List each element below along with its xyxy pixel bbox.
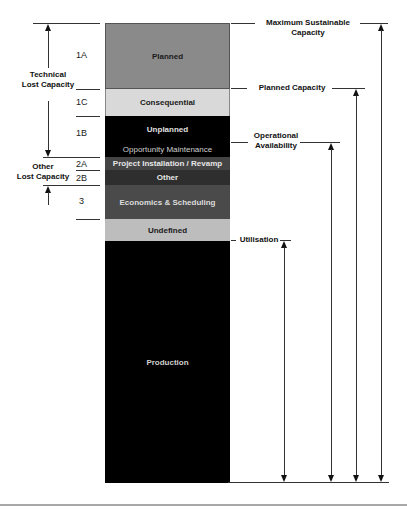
max-capacity-arrow bbox=[381, 30, 382, 476]
planned-capacity-label: Planned Capacity bbox=[254, 83, 330, 93]
operational-availability-label: Operational Availability bbox=[248, 131, 304, 151]
segment-sublabel: Opportunity Maintenance bbox=[123, 145, 212, 154]
code-1b: 1B bbox=[76, 128, 87, 138]
tick-2b-3 bbox=[43, 185, 100, 186]
arrow-down-icon bbox=[281, 475, 287, 482]
tick-planned-left bbox=[231, 88, 247, 89]
segment-undefined: Undefined bbox=[105, 219, 230, 241]
code-3: 3 bbox=[79, 196, 84, 206]
technical-arrow-upper bbox=[48, 30, 49, 68]
tick-utilisation-left bbox=[231, 240, 236, 241]
segment-production: Production bbox=[105, 241, 230, 483]
other-arrow bbox=[48, 192, 49, 205]
segment-economics-scheduling: Economics & Scheduling bbox=[105, 185, 230, 219]
segment-label: Unplanned bbox=[147, 125, 188, 134]
segment-label: Other bbox=[157, 173, 178, 182]
baseline bbox=[228, 482, 389, 483]
maximum-sustainable-capacity-label: Maximum Sustainable Capacity bbox=[258, 18, 358, 38]
segment-label: Undefined bbox=[148, 226, 187, 235]
arrow-down-icon bbox=[378, 475, 384, 482]
segment-other: Other bbox=[105, 170, 230, 185]
other-lost-capacity-label: Other Lost Capacity bbox=[8, 162, 78, 182]
segment-label: Project Installation / Revamp bbox=[113, 159, 222, 168]
segment-label: Economics & Scheduling bbox=[119, 198, 215, 207]
bottom-divider bbox=[0, 504, 407, 506]
code-1c: 1C bbox=[76, 97, 88, 107]
technical-lost-capacity-label: Technical Lost Capacity bbox=[10, 70, 86, 90]
tick-operational-right bbox=[300, 142, 340, 143]
tick-2a-2b bbox=[76, 170, 100, 171]
technical-arrow-lower bbox=[48, 101, 49, 151]
segment-label: Production bbox=[146, 358, 188, 367]
arrow-down-icon bbox=[353, 475, 359, 482]
segment-consequential: Consequential bbox=[105, 89, 230, 116]
code-1a: 1A bbox=[76, 50, 87, 60]
utilisation-arrow bbox=[284, 247, 285, 476]
segment-planned: Planned bbox=[105, 23, 230, 89]
segment-label: Consequential bbox=[140, 98, 195, 107]
tick-planned-right bbox=[332, 88, 365, 89]
tick-operational-left bbox=[231, 142, 248, 143]
segment-project-installation: Project Installation / Revamp bbox=[105, 157, 230, 170]
tick-1b-2a bbox=[43, 157, 100, 158]
planned-capacity-arrow bbox=[356, 95, 357, 476]
segment-label: Planned bbox=[152, 52, 183, 61]
segment-unplanned: Unplanned Opportunity Maintenance bbox=[105, 116, 230, 157]
utilisation-label: Utilisation bbox=[238, 235, 280, 245]
tick-max-left bbox=[231, 23, 255, 24]
operational-availability-arrow bbox=[331, 149, 332, 476]
tick-top-left bbox=[33, 23, 100, 24]
arrow-down-icon bbox=[328, 475, 334, 482]
arrow-down-icon bbox=[45, 150, 51, 157]
tick-1c-1b bbox=[76, 116, 100, 117]
tick-3-undefined bbox=[76, 219, 100, 220]
